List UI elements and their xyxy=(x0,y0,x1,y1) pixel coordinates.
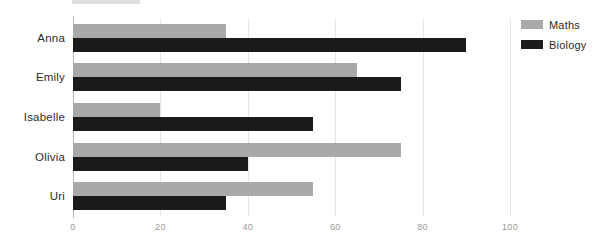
bar-chart: 020406080100 AnnaEmilyIsabelleOliviaUri … xyxy=(0,0,609,248)
bar-uri-maths xyxy=(73,182,313,196)
legend-item-maths[interactable]: Maths xyxy=(521,16,605,33)
legend-label: Biology xyxy=(549,39,586,51)
x-tick-label: 0 xyxy=(70,222,75,232)
legend-swatch-icon xyxy=(521,40,543,49)
scan-artifact xyxy=(72,0,140,4)
bar-isabelle-biology xyxy=(73,117,313,131)
bar-uri-biology xyxy=(73,196,226,210)
x-tick-label: 80 xyxy=(417,222,428,232)
legend-swatch-icon xyxy=(521,20,543,29)
bar-anna-biology xyxy=(73,38,466,52)
y-axis-label-olivia: Olivia xyxy=(35,151,65,163)
legend-item-biology[interactable]: Biology xyxy=(521,36,605,53)
gridline-100 xyxy=(510,18,511,216)
bar-olivia-biology xyxy=(73,157,248,171)
y-axis-label-anna: Anna xyxy=(37,32,65,44)
y-axis-label-uri: Uri xyxy=(50,190,65,202)
x-tick-label: 100 xyxy=(502,222,518,232)
bar-anna-maths xyxy=(73,24,226,38)
chart-legend: MathsBiology xyxy=(521,16,605,56)
y-axis-label-emily: Emily xyxy=(36,71,65,83)
x-tick-label: 40 xyxy=(242,222,253,232)
plot-area xyxy=(73,18,510,216)
x-tick-label: 60 xyxy=(330,222,341,232)
y-axis-label-isabelle: Isabelle xyxy=(24,111,65,123)
bar-olivia-maths xyxy=(73,143,401,157)
legend-label: Maths xyxy=(549,19,580,31)
bar-isabelle-maths xyxy=(73,103,160,117)
y-axis-category-labels: AnnaEmilyIsabelleOliviaUri xyxy=(0,18,65,216)
x-tick-label: 20 xyxy=(155,222,166,232)
bar-emily-maths xyxy=(73,63,357,77)
bar-emily-biology xyxy=(73,77,401,91)
